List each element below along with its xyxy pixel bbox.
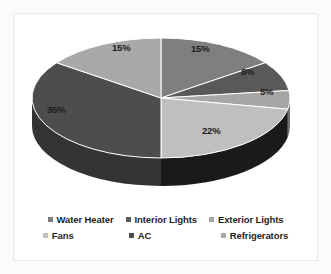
legend-item-refrigerators[interactable]: Refrigerators — [221, 230, 288, 241]
legend-item-interior-lights[interactable]: Interior Lights — [126, 214, 197, 225]
legend-item-water-heater[interactable]: Water Heater — [48, 214, 114, 225]
legend-swatch-icon — [209, 217, 214, 222]
legend-label: Refrigerators — [230, 230, 288, 241]
legend-label: Exterior Lights — [218, 214, 284, 225]
legend-label: Water Heater — [57, 214, 114, 225]
legend-item-fans[interactable]: Fans — [43, 230, 129, 241]
legend-label: Interior Lights — [135, 214, 197, 225]
pie-label-ac: 35% — [47, 105, 65, 115]
pie-chart[interactable]: 15% 8% 5% 22% 35% 15% — [14, 14, 317, 204]
pie-label-exterior-lights: 5% — [260, 87, 273, 97]
legend-swatch-icon — [48, 217, 53, 222]
legend-swatch-icon — [221, 233, 226, 238]
pie-top-face — [32, 38, 290, 158]
legend-item-exterior-lights[interactable]: Exterior Lights — [209, 214, 284, 225]
pie-label-interior-lights: 8% — [241, 67, 254, 77]
chart-legend: Water Heater Interior Lights Exterior Li… — [14, 210, 317, 258]
pie-label-refrigerators: 15% — [112, 43, 130, 53]
legend-item-ac[interactable]: AC — [129, 230, 221, 241]
pie-label-water-heater: 15% — [191, 44, 209, 54]
legend-swatch-icon — [129, 233, 134, 238]
legend-row-2: Fans AC Refrigerators — [43, 230, 288, 241]
legend-swatch-icon — [43, 233, 48, 238]
legend-row-1: Water Heater Interior Lights Exterior Li… — [48, 214, 284, 225]
legend-swatch-icon — [126, 217, 131, 222]
legend-label: AC — [138, 230, 152, 241]
chart-frame: 15% 8% 5% 22% 35% 15% Water Heater Inter… — [0, 0, 331, 274]
pie-label-fans: 22% — [202, 126, 220, 136]
legend-label: Fans — [52, 230, 74, 241]
chart-plot-panel: 15% 8% 5% 22% 35% 15% Water Heater Inter… — [13, 13, 318, 261]
